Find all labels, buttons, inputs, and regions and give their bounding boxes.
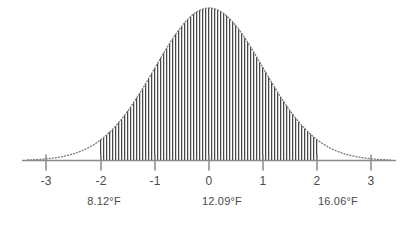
- axis-tick-marks: [46, 155, 371, 171]
- tick-label--2: -2: [95, 175, 106, 187]
- normal-distribution-chart: -3-2-10123 8.12°F12.09°F16.06°F: [0, 0, 413, 225]
- tick-label-0: 0: [206, 175, 213, 187]
- tick-label-1: 1: [260, 175, 267, 187]
- temperature-label-0: 8.12°F: [87, 196, 121, 207]
- tick-label--3: -3: [40, 175, 51, 187]
- tick-label-2: 2: [314, 175, 321, 187]
- tick-label-3: 3: [368, 175, 375, 187]
- chart-canvas: [0, 0, 413, 225]
- temperature-label-2: 16.06°F: [318, 196, 358, 207]
- shaded-area-hatching: [101, 8, 317, 161]
- tick-label--1: -1: [149, 175, 160, 187]
- temperature-label-1: 12.09°F: [202, 196, 242, 207]
